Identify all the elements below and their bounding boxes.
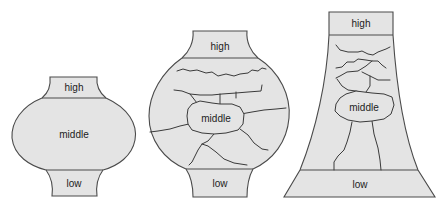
vessel-2-label-bottom: low bbox=[212, 178, 228, 189]
vessel-1: high middle low bbox=[12, 77, 136, 196]
vessel-2-label-top: high bbox=[211, 41, 230, 52]
vessel-3-label-bottom: low bbox=[352, 179, 368, 190]
vessel-2: high middle low bbox=[149, 31, 289, 197]
vessel-3-label-center: middle bbox=[349, 102, 379, 113]
vessel-3-label-top: high bbox=[352, 18, 371, 29]
diagram-canvas: high middle low high middle low bbox=[0, 0, 447, 209]
vessel-2-label-center: middle bbox=[201, 113, 231, 124]
vessel-1-label-center: middle bbox=[59, 129, 89, 140]
vessel-3: high middle low bbox=[284, 12, 435, 197]
vessel-1-label-bottom: low bbox=[66, 178, 82, 189]
vessel-1-label-top: high bbox=[65, 82, 84, 93]
